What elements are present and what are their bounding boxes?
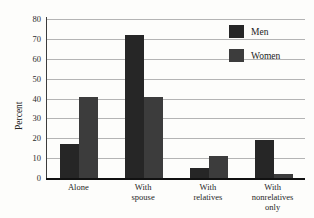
y-tick-label: 0 [19, 174, 41, 182]
legend-label-men: Men [251, 27, 268, 37]
legend-swatch-men-icon [229, 25, 244, 38]
y-tick-label: 10 [19, 154, 41, 162]
x-tick-label-line: With [233, 182, 313, 192]
x-tick-label-line: only [233, 202, 313, 212]
y-tick-label: 20 [19, 134, 41, 142]
x-tick-label-line: nonrelatives [233, 192, 313, 202]
y-tick-label: 60 [19, 55, 41, 63]
y-tick-label: 30 [19, 114, 41, 122]
bar-women-3 [274, 174, 293, 178]
bar-men-2 [190, 168, 209, 178]
y-tick-label: 50 [19, 75, 41, 83]
bar-men-3 [255, 140, 274, 178]
bar-men-1 [125, 35, 144, 178]
bar-women-2 [209, 156, 228, 178]
bar-women-1 [144, 97, 163, 178]
bar-women-0 [79, 97, 98, 178]
legend-swatch-women-icon [229, 49, 244, 62]
x-tick-label: Withnonrelativesonly [233, 182, 313, 212]
bar-men-0 [60, 144, 79, 178]
legend-label-women: Women [251, 51, 280, 61]
y-tick-label: 80 [19, 15, 41, 23]
legend-item-women: Women [229, 46, 307, 65]
bar-chart: Percent 01020304050607080 AloneWithspous… [0, 0, 314, 218]
y-tick-label: 40 [19, 95, 41, 103]
legend-item-men: Men [229, 22, 307, 41]
chart-legend: Men Women [229, 22, 307, 70]
x-axis-baseline [46, 178, 305, 180]
y-tick-label: 70 [19, 35, 41, 43]
